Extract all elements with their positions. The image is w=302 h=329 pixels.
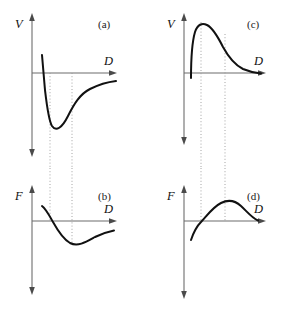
panel-d-vertical-axis bbox=[181, 185, 187, 299]
panel-c-vertical-axis bbox=[181, 13, 187, 145]
panel-a-tag: (a) bbox=[98, 18, 111, 31]
panel-c-potential-curve bbox=[191, 24, 261, 78]
panel-d-d-label: D bbox=[253, 202, 263, 216]
panel-d-tag: (d) bbox=[247, 190, 260, 203]
panel-b-d-label: D bbox=[103, 202, 113, 216]
panel-a: V D (a) bbox=[0, 0, 151, 168]
panel-b-vertical-axis bbox=[29, 185, 35, 295]
panel-a-d-label: D bbox=[103, 54, 113, 68]
panel-d-f-label: F bbox=[166, 189, 175, 203]
panel-b-tag: (b) bbox=[98, 190, 111, 203]
panel-a-vertical-axis bbox=[29, 13, 35, 157]
panel-d: F D (d) bbox=[151, 168, 302, 329]
physics-figure: V D (a) F D (b) bbox=[0, 0, 302, 329]
panel-c: V D (c) bbox=[151, 0, 302, 168]
panel-c-v-label: V bbox=[167, 17, 176, 31]
panel-c-tag: (c) bbox=[247, 18, 260, 31]
panel-c-d-label: D bbox=[253, 54, 263, 68]
panel-a-v-label: V bbox=[15, 17, 24, 31]
panel-b: F D (b) bbox=[0, 168, 151, 329]
panel-b-horizontal-axis bbox=[32, 218, 117, 224]
panel-b-f-label: F bbox=[14, 189, 23, 203]
panel-a-horizontal-axis bbox=[32, 70, 117, 76]
